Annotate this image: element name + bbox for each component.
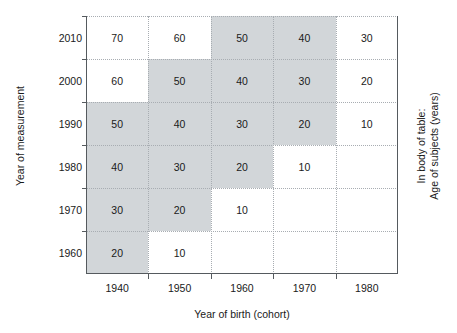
grid-line-horizontal xyxy=(86,231,398,232)
cell-value: 10 xyxy=(174,247,186,259)
y-tick-label: 1960 xyxy=(40,247,82,259)
x-tick-mark xyxy=(148,274,149,279)
cell-value: 60 xyxy=(174,32,186,44)
annotation-line-1: In body of table: xyxy=(415,56,428,236)
grid-line-horizontal xyxy=(86,59,398,60)
y-tick-label: 1970 xyxy=(40,204,82,216)
grid-line-vertical xyxy=(211,16,212,274)
x-axis-title: Year of birth (cohort) xyxy=(86,308,398,320)
cell-value: 10 xyxy=(361,118,373,130)
axis-spine-right xyxy=(397,16,398,274)
cell-value: 40 xyxy=(111,161,123,173)
x-tick-mark xyxy=(211,274,212,279)
x-tick-label: 1940 xyxy=(87,282,147,294)
cell-value: 50 xyxy=(236,32,248,44)
y-tick-label: 1990 xyxy=(40,118,82,130)
cell-value: 10 xyxy=(236,204,248,216)
x-tick-mark xyxy=(273,274,274,279)
cell-value: 40 xyxy=(236,75,248,87)
grid-line-horizontal xyxy=(86,188,398,189)
cell-value: 20 xyxy=(174,204,186,216)
grid-line-vertical xyxy=(273,16,274,274)
cell-value: 20 xyxy=(361,75,373,87)
cell-value: 20 xyxy=(236,161,248,173)
cell-value: 10 xyxy=(299,161,311,173)
plot-area: 7060504030605040302050403020104030201030… xyxy=(86,16,398,274)
lexis-table-figure: Year of measurement 20102000199019801970… xyxy=(0,0,457,333)
grid-line-vertical xyxy=(148,16,149,274)
x-tick-label: 1980 xyxy=(337,282,397,294)
cell-value: 30 xyxy=(299,75,311,87)
grid-line-horizontal xyxy=(86,145,398,146)
cell-value: 30 xyxy=(174,161,186,173)
y-tick-label: 2000 xyxy=(40,75,82,87)
x-tick-mark xyxy=(336,274,337,279)
y-axis-tick-labels: 201020001990198019701960 xyxy=(40,16,82,274)
cell-value: 40 xyxy=(174,118,186,130)
annotation-line-2: Age of subjects (years) xyxy=(428,56,441,236)
cell-value: 30 xyxy=(361,32,373,44)
cell-value: 60 xyxy=(111,75,123,87)
cell-value: 40 xyxy=(299,32,311,44)
y-axis-title: Year of measurement xyxy=(14,46,26,226)
cell-value: 50 xyxy=(111,118,123,130)
axis-spine-bottom xyxy=(86,273,398,274)
grid-line-horizontal xyxy=(86,102,398,103)
cell-value: 20 xyxy=(111,247,123,259)
cell-value: 70 xyxy=(111,32,123,44)
x-tick-label: 1970 xyxy=(274,282,334,294)
y-tick-label: 1980 xyxy=(40,161,82,173)
y-tick-label: 2010 xyxy=(40,32,82,44)
grid-line-vertical xyxy=(336,16,337,274)
cell-value: 50 xyxy=(174,75,186,87)
cell-value: 20 xyxy=(299,118,311,130)
cell-value: 30 xyxy=(236,118,248,130)
body-of-table-annotation: In body of table: Age of subjects (years… xyxy=(415,56,441,236)
cell-value: 30 xyxy=(111,204,123,216)
axis-spine-left xyxy=(86,16,87,274)
grid-line-horizontal xyxy=(86,16,398,17)
x-tick-label: 1960 xyxy=(212,282,272,294)
x-axis-tick-labels: 19401950196019701980 xyxy=(86,282,398,298)
x-tick-label: 1950 xyxy=(150,282,210,294)
